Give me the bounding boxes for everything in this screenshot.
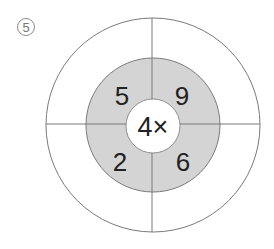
inner-number-top-left: 5 — [115, 81, 129, 111]
inner-number-bottom-left: 2 — [113, 147, 127, 177]
multiplication-wheel: 5 9 2 6 4× — [0, 0, 274, 249]
inner-number-bottom-right: 6 — [176, 147, 190, 177]
center-operation: 4× — [138, 112, 169, 142]
inner-number-top-right: 9 — [175, 81, 189, 111]
